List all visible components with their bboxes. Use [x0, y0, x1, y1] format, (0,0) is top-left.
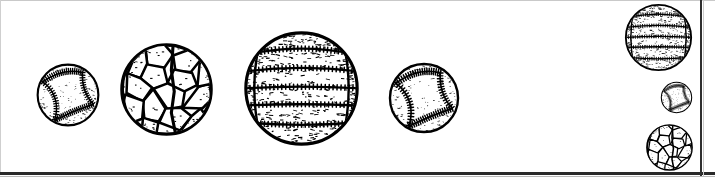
- ball-baseball-column-middle: [660, 81, 693, 114]
- ball-baseball-medium-right: [387, 61, 461, 135]
- right-border-rule-secondary: [703, 0, 704, 176]
- illustration-canvas: [0, 0, 715, 184]
- ball-soccer-ball-large: [118, 41, 215, 138]
- ball-volleyball-column-top: [623, 2, 694, 73]
- bottom-border-rule-secondary: [0, 176, 715, 177]
- ball-soccer-ball-column-bottom: [645, 123, 694, 172]
- right-border-rule: [700, 0, 702, 176]
- top-border-rule: [0, 0, 715, 1]
- ball-volleyball-large: [241, 28, 362, 149]
- left-border-rule: [0, 0, 1, 175]
- ball-baseball-large-left: [35, 62, 101, 128]
- bottom-border-rule: [0, 172, 715, 175]
